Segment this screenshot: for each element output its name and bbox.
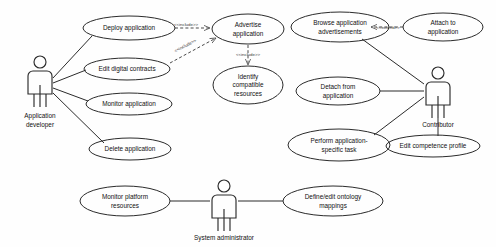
use-case-label-line2: resources [111, 202, 139, 209]
use-case-label-line1: Define/edit ontology [305, 193, 362, 201]
use-case-label-line1: Monitor platform [102, 193, 148, 201]
use-case-label: Delete application [105, 145, 156, 153]
stereotype-include-advertise-identify: <<include>> [236, 52, 261, 57]
use-case-label-line1: Attach to [430, 19, 456, 26]
use-case-label: Deploy application [103, 24, 156, 32]
use-case-label: Edit digital contracts [98, 65, 155, 73]
use-case-label-line2: advertisements [318, 28, 361, 35]
actor-label: Contributor [422, 121, 454, 128]
use-case-label-line1: Advertise [235, 21, 262, 28]
use-case-label-line1: Perform application- [310, 137, 367, 145]
actor-label: System administrator [194, 234, 255, 242]
stereotype-include-deploy-advertise: <<include>> [174, 22, 199, 27]
actor-label-line1: Applicationdeveloper [24, 112, 56, 129]
use-case-label: Monitor application [102, 100, 156, 108]
use-case-label-line1: Browse application [313, 19, 367, 27]
use-case-label-line2: mappings [319, 202, 347, 210]
stereotype-extend-browse-attach: <<extend>> [376, 25, 400, 30]
use-case-label-line3: resources [234, 90, 262, 97]
use-case-label-line2: application [428, 28, 459, 36]
use-case-label: Edit competence profile [400, 142, 467, 150]
use-case-label-line1: Identify [238, 73, 259, 81]
use-case-label-line2: application [323, 92, 354, 100]
use-case-diagram-canvas: Deploy application Edit digital contract… [0, 0, 496, 247]
use-case-label-line1: Detach from [321, 83, 356, 90]
use-case-label-line2: compatible [233, 81, 264, 89]
use-case-label-line2: specific task [322, 146, 358, 154]
use-case-label-line2: application [233, 30, 264, 38]
